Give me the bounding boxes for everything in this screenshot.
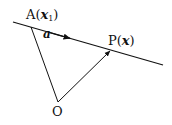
- label-direction-a: a: [43, 28, 51, 40]
- label-O: O: [52, 105, 63, 118]
- point-P-name: P: [108, 33, 117, 48]
- point-P-arg: x: [122, 33, 130, 48]
- point-A-sub: 1: [48, 14, 53, 23]
- label-P: P(x): [108, 34, 135, 47]
- vector-line-diagram: A(x1) a P(x) O: [0, 0, 172, 125]
- label-A: A(x1): [26, 8, 58, 23]
- direction-arrow: [50, 33, 70, 39]
- line-through-A-P: [13, 22, 163, 65]
- vector-OP: [58, 51, 110, 102]
- point-A-name: A: [26, 7, 35, 22]
